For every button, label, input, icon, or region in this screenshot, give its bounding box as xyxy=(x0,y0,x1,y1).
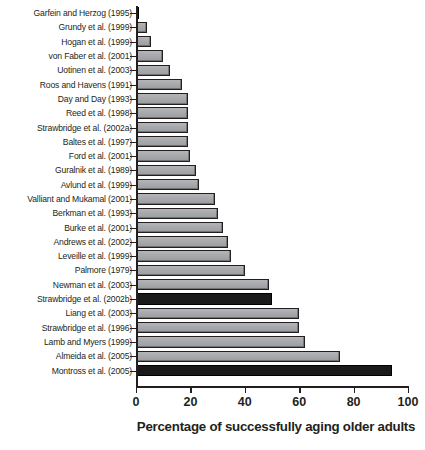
bar-track xyxy=(136,322,299,333)
bar-category-label: Valliant and Mukamal (2001) xyxy=(0,194,132,204)
chart-row: Reed et al. (1998) xyxy=(0,106,425,120)
chart-row: Strawbridge et al. (2002b) xyxy=(0,292,425,306)
bar-category-label: von Faber et al. (2001) xyxy=(0,51,132,61)
chart-row: Leveille et al. (1999) xyxy=(0,249,425,263)
bar xyxy=(136,308,299,319)
bar xyxy=(136,136,188,147)
x-axis-tick-label: 0 xyxy=(133,395,140,409)
chart-row: Burke et al. (2001) xyxy=(0,220,425,234)
bar-category-label: Strawbridge et al. (2002a) xyxy=(0,123,132,133)
bar-category-label: Ford et al. (2001) xyxy=(0,151,132,161)
bar-track xyxy=(136,365,392,376)
bar-category-label: Grundy et al. (1999) xyxy=(0,22,132,32)
bar-category-label: Berkman et al. (1993) xyxy=(0,208,132,218)
bar-track xyxy=(136,279,269,290)
bar xyxy=(136,122,188,133)
bar xyxy=(136,208,218,219)
chart-row: Berkman et al. (1993) xyxy=(0,206,425,220)
chart-rows: Garfein and Herzog (1995)Grundy et al. (… xyxy=(0,6,425,378)
chart-row: Baltes et al. (1997) xyxy=(0,135,425,149)
bar-track xyxy=(136,79,182,90)
chart-row: Almeida et al. (2005) xyxy=(0,349,425,363)
y-axis-line xyxy=(136,6,138,387)
x-axis-tick xyxy=(408,386,409,393)
chart-row: Garfein and Herzog (1995) xyxy=(0,6,425,20)
bar-category-label: Liang et al. (2003) xyxy=(0,308,132,318)
bar-category-label: Avlund et al. (1999) xyxy=(0,180,132,190)
bar-track xyxy=(136,165,196,176)
bar-track xyxy=(136,236,228,247)
x-axis-title: Percentage of successfully aging older a… xyxy=(136,419,416,434)
x-axis-tick xyxy=(190,386,191,393)
bar-track xyxy=(136,122,188,133)
bar xyxy=(136,336,305,347)
bar-track xyxy=(136,308,299,319)
bar-track xyxy=(136,293,272,304)
bar-chart: Garfein and Herzog (1995)Grundy et al. (… xyxy=(0,0,425,450)
chart-row: Guralnik et al. (1989) xyxy=(0,163,425,177)
bar-category-label: Strawbridge et al. (2002b) xyxy=(0,294,132,304)
bar xyxy=(136,265,245,276)
bar-category-label: Newman et al. (2003) xyxy=(0,280,132,290)
chart-row: Hogan et al. (1999) xyxy=(0,35,425,49)
bar-track xyxy=(136,222,223,233)
bar-track xyxy=(136,265,245,276)
bar xyxy=(136,222,223,233)
bar-category-label: Day and Day (1993) xyxy=(0,94,132,104)
x-axis-line xyxy=(136,386,408,388)
bar-track xyxy=(136,136,188,147)
bar-category-label: Burke et al. (2001) xyxy=(0,223,132,233)
bar-track xyxy=(136,351,340,362)
bar-track xyxy=(136,250,231,261)
chart-row: von Faber et al. (2001) xyxy=(0,49,425,63)
bar-track xyxy=(136,150,190,161)
chart-row: Ford et al. (2001) xyxy=(0,149,425,163)
bar-track xyxy=(136,107,188,118)
bar-category-label: Garfein and Herzog (1995) xyxy=(0,8,132,18)
chart-row: Strawbridge et al. (2002a) xyxy=(0,120,425,134)
bar xyxy=(136,65,170,76)
bar-track xyxy=(136,36,151,47)
chart-row: Roos and Havens (1991) xyxy=(0,77,425,91)
x-axis-tick-label: 80 xyxy=(347,395,361,409)
bar-track xyxy=(136,65,170,76)
x-axis-tick xyxy=(245,386,246,393)
bar-category-label: Roos and Havens (1991) xyxy=(0,80,132,90)
bar-category-label: Andrews et al. (2002) xyxy=(0,237,132,247)
bar xyxy=(136,50,163,61)
bar xyxy=(136,193,215,204)
bar-category-label: Baltes et al. (1997) xyxy=(0,137,132,147)
bar-track xyxy=(136,50,163,61)
bar xyxy=(136,93,188,104)
bar-category-label: Lamb and Myers (1999) xyxy=(0,337,132,347)
chart-row: Strawbridge et al. (1996) xyxy=(0,321,425,335)
chart-row: Palmore (1979) xyxy=(0,263,425,277)
bar xyxy=(136,365,392,376)
chart-row: Valliant and Mukamal (2001) xyxy=(0,192,425,206)
bar xyxy=(136,293,272,304)
bar xyxy=(136,36,151,47)
bar-track xyxy=(136,193,215,204)
bar-track xyxy=(136,336,305,347)
bar xyxy=(136,79,182,90)
bar xyxy=(136,165,196,176)
bar-category-label: Leveille et al. (1999) xyxy=(0,251,132,261)
bar-category-label: Montross et al. (2005) xyxy=(0,366,132,376)
chart-row: Day and Day (1993) xyxy=(0,92,425,106)
bar xyxy=(136,22,147,33)
bar xyxy=(136,250,231,261)
bar-track xyxy=(136,179,199,190)
x-axis-tick-label: 60 xyxy=(292,395,306,409)
bar-category-label: Strawbridge et al. (1996) xyxy=(0,323,132,333)
x-axis-tick xyxy=(299,386,300,393)
chart-row: Newman et al. (2003) xyxy=(0,278,425,292)
x-axis-tick xyxy=(354,386,355,393)
bar xyxy=(136,107,188,118)
bar-category-label: Guralnik et al. (1989) xyxy=(0,165,132,175)
bar-category-label: Hogan et al. (1999) xyxy=(0,37,132,47)
bar-track xyxy=(136,208,218,219)
bar xyxy=(136,351,340,362)
chart-row: Uotinen et al. (2003) xyxy=(0,63,425,77)
bar-category-label: Almeida et al. (2005) xyxy=(0,351,132,361)
x-axis-tick-label: 20 xyxy=(183,395,197,409)
